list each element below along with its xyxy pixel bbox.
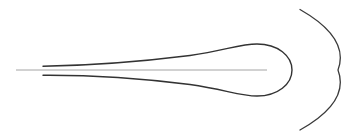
diagram-svg (0, 0, 350, 133)
diagram-canvas (0, 0, 350, 133)
outer-arc-curve (300, 10, 340, 131)
